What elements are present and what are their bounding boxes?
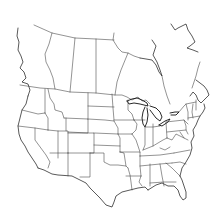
- id-mt-border: [48, 89, 64, 118]
- ia-il-border: [132, 120, 137, 134]
- tn-south-border: [140, 163, 172, 166]
- ky-tn-border: [140, 153, 174, 156]
- or-id-border: [45, 113, 48, 130]
- ma-border: [188, 116, 200, 118]
- ny-vt-border: [186, 104, 188, 120]
- il-in-border: [143, 127, 145, 150]
- al-fl-border: [150, 182, 176, 183]
- ne-ks-border: [94, 133, 118, 134]
- nm-tx-border: [80, 153, 90, 177]
- ks-ok-border: [94, 145, 120, 146]
- outline-map: [0, 0, 217, 213]
- lake-ontario: [170, 112, 179, 115]
- ne-ia-mo-border: [114, 121, 120, 152]
- gulf-coast: [148, 176, 186, 200]
- manitoba-hudson-shore: [113, 33, 140, 58]
- lake-michigan: [142, 107, 148, 127]
- alberta-saskatchewan-border: [70, 38, 75, 92]
- ky-va-border: [160, 147, 170, 150]
- bc-alberta-border: [45, 33, 55, 89]
- mi-in-oh-border: [145, 126, 160, 127]
- ga-sc-border: [166, 163, 180, 176]
- tx-la-border: [128, 168, 132, 190]
- ok-ar-border: [120, 152, 126, 166]
- ok-panhandle: [90, 153, 128, 168]
- ca-nv-border: [35, 128, 50, 168]
- va-md-border: [180, 132, 188, 140]
- id-ut-nv-border: [48, 130, 66, 131]
- nc-sc-border: [172, 162, 186, 164]
- mo-il-border: [132, 134, 140, 152]
- ut-wy-co-border: [66, 118, 68, 153]
- nd-sd-border: [88, 106, 114, 107]
- quebec-north-coast: [171, 24, 198, 52]
- manitoba-ontario-border: [115, 53, 128, 95]
- maritimes: [190, 80, 209, 103]
- canada-outline: [17, 24, 209, 104]
- wa-or-border: [22, 110, 45, 114]
- pa-south-border: [167, 130, 186, 132]
- canada-north-boundary: [34, 25, 114, 40]
- james-bay: [140, 40, 162, 76]
- nc-va-border: [174, 150, 190, 153]
- or-ca-nv-border: [18, 126, 48, 130]
- united-states-outline: [18, 89, 205, 207]
- sd-ne-border: [88, 119, 114, 121]
- oh-ky-wv-border: [143, 138, 167, 150]
- ontario-quebec-border: [162, 76, 170, 104]
- quebec-labrador-border: [192, 62, 200, 88]
- lake-huron: [150, 106, 162, 121]
- la-ms-border: [139, 176, 142, 186]
- co-borders: [68, 133, 94, 153]
- great-lakes: [127, 98, 179, 127]
- oh-pa-border: [166, 122, 167, 138]
- vt-nh-border: [192, 104, 193, 118]
- wv-va-border: [167, 134, 184, 140]
- us-canada-border: [20, 85, 150, 104]
